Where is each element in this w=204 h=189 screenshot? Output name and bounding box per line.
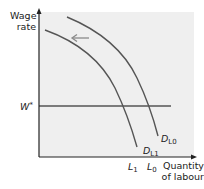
x-axis-label-line1: Quantity [160, 160, 204, 171]
y-axis-arrow-icon [37, 8, 42, 14]
x-tick-l1: L1 [128, 161, 138, 176]
demand-l0-label: DL0 [161, 133, 177, 148]
x-tick-l0: L0 [147, 161, 157, 176]
demand-l1-label: DL1 [143, 145, 159, 160]
wage-star-label: W* [20, 100, 33, 112]
y-axis-label-line2: rate [10, 21, 36, 32]
x-axis-label-line2: of labour [160, 171, 204, 182]
y-axis-label-line1: Wage [10, 10, 36, 21]
y-axis-label: Wage rate [10, 10, 36, 32]
x-axis-label: Quantity of labour [160, 160, 204, 182]
